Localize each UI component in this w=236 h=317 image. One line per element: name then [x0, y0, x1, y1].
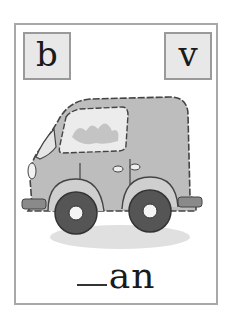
word-prompt: an — [16, 255, 216, 296]
word-suffix: an — [109, 255, 156, 296]
van-icon — [20, 87, 216, 257]
letter-v-label: v — [178, 37, 197, 71]
letter-choice-v[interactable]: v — [164, 32, 212, 80]
missing-letter-blank[interactable] — [77, 284, 107, 286]
letter-choice-b[interactable]: b — [23, 32, 71, 80]
phonics-card: b v an — [14, 23, 218, 305]
letter-b-label: b — [36, 37, 58, 71]
